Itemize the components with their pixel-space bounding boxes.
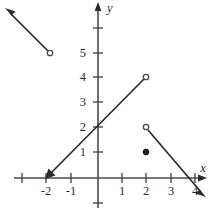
- x-axis-label: x: [199, 161, 206, 175]
- y-tick-label-5: 5: [80, 46, 86, 60]
- branch-upper-left: [5, 8, 53, 56]
- branch-middle-rising: [45, 74, 149, 179]
- branch-right-falling-line: [148, 130, 201, 192]
- y-tick-label-2: 2: [80, 120, 86, 134]
- isolated-point-2-1: [143, 149, 149, 155]
- open-endpoint-2-4: [143, 74, 148, 79]
- x-axis-arrowhead-icon: [198, 175, 207, 182]
- x-tick-label-neg2: -2: [41, 184, 51, 198]
- graph-figure: -2 -1 1 2 3 4 5 4 3 2 1 x y: [0, 0, 214, 210]
- y-tick-label-1: 1: [80, 145, 86, 159]
- open-endpoint-neg2-5: [47, 50, 52, 55]
- x-tick-label-1: 1: [119, 184, 125, 198]
- branch-right-falling: [143, 124, 206, 197]
- y-axis-label: y: [105, 1, 113, 15]
- x-tick-label-3: 3: [168, 184, 174, 198]
- x-tick-label-neg1: -1: [66, 184, 76, 198]
- axes-group: [14, 2, 207, 208]
- branch-middle-rising-line: [50, 79, 144, 174]
- open-endpoint-2-2: [143, 124, 148, 129]
- branch-upper-left-line: [10, 13, 48, 51]
- y-axis-arrowhead-icon: [95, 2, 102, 11]
- y-tick-label-3: 3: [80, 95, 86, 109]
- x-tick-label-2: 2: [143, 184, 149, 198]
- coordinate-plane-svg: -2 -1 1 2 3 4 5 4 3 2 1 x y: [0, 0, 214, 210]
- y-tick-label-4: 4: [80, 70, 87, 84]
- tick-labels-group: -2 -1 1 2 3 4 5 4 3 2 1: [41, 46, 199, 198]
